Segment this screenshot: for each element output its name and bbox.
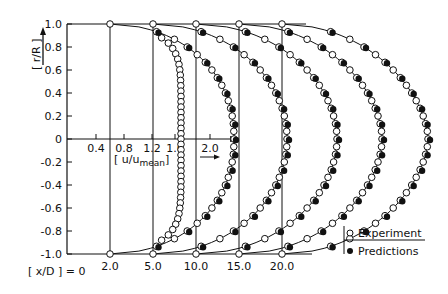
prediction-point — [252, 60, 258, 66]
prediction-point — [155, 244, 161, 250]
experiment-point — [231, 128, 238, 135]
experiment-point — [281, 113, 288, 120]
prediction-point — [155, 30, 161, 36]
experiment-point — [287, 220, 294, 227]
prediction-point — [200, 244, 206, 250]
prediction-point — [313, 76, 319, 82]
svg-text:1.2: 1.2 — [143, 142, 161, 155]
svg-text:0.4: 0.4 — [45, 87, 63, 100]
experiment-point — [333, 143, 340, 150]
experiment-point — [283, 143, 290, 150]
experiment-point — [375, 113, 382, 120]
prediction-point — [363, 45, 369, 51]
prediction-point — [424, 152, 430, 158]
prediction-point — [320, 45, 326, 51]
prediction-point — [281, 106, 287, 112]
experiment-point — [268, 189, 275, 196]
filled-circle-icon — [347, 248, 353, 254]
experiment-point — [229, 159, 236, 166]
prediction-point — [216, 198, 222, 204]
experiment-point — [368, 97, 375, 104]
prediction-point — [233, 137, 239, 143]
prediction-point — [374, 106, 380, 112]
experiment-point — [150, 251, 157, 258]
experiment-point — [268, 82, 275, 89]
prediction-point — [204, 214, 210, 220]
experiment-point — [262, 36, 269, 43]
experiment-point — [420, 159, 427, 166]
svg-text:0.2: 0.2 — [45, 110, 63, 123]
experiment-point — [217, 36, 224, 43]
experiment-point — [413, 97, 420, 104]
prediction-point — [341, 60, 347, 66]
experiment-point — [325, 97, 332, 104]
experiment-point — [403, 82, 410, 89]
prediction-point — [329, 244, 335, 250]
prediction-point — [399, 198, 405, 204]
svg-text:0.6: 0.6 — [45, 64, 63, 77]
svg-text:-1.0: -1.0 — [41, 248, 62, 261]
experiment-point — [304, 36, 311, 43]
prediction-point — [232, 229, 238, 235]
prediction-point — [379, 122, 385, 128]
legend-predictions: Predictions — [358, 245, 419, 258]
prediction-point — [411, 183, 417, 189]
svg-text:-0.2: -0.2 — [41, 156, 62, 169]
experiment-point — [368, 174, 375, 181]
experiment-point — [241, 51, 248, 58]
prediction-point — [341, 214, 347, 220]
experiment-point — [375, 159, 382, 166]
experiment-point — [279, 21, 286, 28]
experiment-point — [158, 237, 165, 244]
prediction-point — [265, 76, 271, 82]
prediction-point — [366, 91, 372, 97]
svg-text:2.0: 2.0 — [201, 142, 219, 155]
prediction-point — [275, 91, 281, 97]
svg-text:-0.6: -0.6 — [41, 202, 62, 215]
prediction-point — [224, 183, 230, 189]
prediction-point — [232, 152, 238, 158]
experiment-point — [304, 235, 311, 242]
svg-text:15.0: 15.0 — [227, 260, 252, 273]
experiment-point — [304, 205, 311, 212]
experiment-point — [194, 51, 201, 58]
prediction-point — [356, 76, 362, 82]
prediction-point — [244, 244, 250, 250]
prediction-point — [336, 137, 342, 143]
prediction-point — [204, 60, 210, 66]
experiment-point — [359, 189, 366, 196]
prediction-point — [278, 229, 284, 235]
experiment-point — [236, 251, 243, 258]
experiment-point — [217, 235, 224, 242]
experiment-point — [378, 143, 385, 150]
prediction-point — [278, 45, 284, 51]
experiment-point — [283, 128, 290, 135]
prediction-point — [287, 244, 293, 250]
experiment-point — [333, 128, 340, 135]
experiment-point — [390, 205, 397, 212]
experiment-point — [413, 174, 420, 181]
svg-text:-0.4: -0.4 — [41, 179, 62, 192]
prediction-point — [399, 76, 405, 82]
prediction-point — [313, 198, 319, 204]
prediction-point — [329, 30, 335, 36]
experiment-point — [281, 159, 288, 166]
prediction-point — [411, 91, 417, 97]
prediction-point — [285, 152, 291, 158]
prediction-point — [186, 45, 192, 51]
x-axis-label: [ u/umean] — [114, 153, 169, 168]
prediction-point — [298, 214, 304, 220]
experiment-point — [171, 235, 178, 242]
prediction-point — [384, 214, 390, 220]
experiment-point — [209, 67, 216, 74]
prediction-point — [275, 183, 281, 189]
svg-text:20.0: 20.0 — [270, 260, 295, 273]
experiment-point — [225, 174, 232, 181]
prediction-point — [330, 106, 336, 112]
prediction-point — [281, 168, 287, 174]
prediction-point — [419, 106, 425, 112]
svg-text:5.0: 5.0 — [144, 260, 162, 273]
svg-text:-0.8: -0.8 — [41, 225, 62, 238]
experiment-point — [241, 220, 248, 227]
experiment-point — [171, 36, 178, 43]
